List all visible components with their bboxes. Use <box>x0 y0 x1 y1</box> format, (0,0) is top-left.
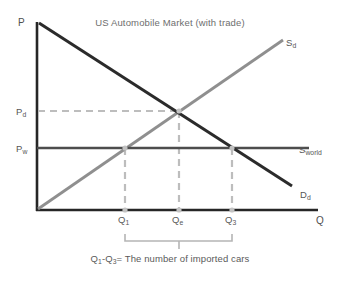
quantity-tick-qe-sub: e <box>180 219 184 226</box>
chart-title: US Automobile Market (with trade) <box>0 17 340 28</box>
quantity-tick-qe: Qe <box>172 215 183 225</box>
q3-axis-point <box>229 145 234 150</box>
curve-label-world-supply: Sworld <box>299 145 322 155</box>
q1-base-point <box>122 207 127 212</box>
q1-axis-point <box>122 145 127 150</box>
quantity-tick-q1: Q1 <box>118 215 129 225</box>
quantity-tick-q1-sub: 1 <box>126 219 130 226</box>
import-range-caption: Q1-Q3= The number of imported cars <box>0 253 340 264</box>
quantity-tick-q3-letter: Q <box>225 214 233 225</box>
economics-diagram: US Automobile Market (with trade) P Q Pd… <box>0 0 340 282</box>
y-axis-label: P <box>18 18 25 28</box>
caption-q-a-sub: 1 <box>98 258 102 265</box>
curve-label-domestic-demand: Dd <box>300 190 311 200</box>
curve-label-domestic-supply-sub: d <box>292 42 296 49</box>
curve-label-domestic-demand-sub: d <box>307 194 311 201</box>
price-tick-world: Pw <box>16 144 27 154</box>
curve-label-domestic-supply: Sd <box>286 38 296 48</box>
curve-label-domestic-demand-letter: D <box>300 189 307 200</box>
price-tick-domestic-sub: d <box>22 111 26 118</box>
qe-base-point <box>176 207 181 212</box>
x-axis-label: Q <box>316 216 324 226</box>
caption-q-b-sub: 3 <box>113 258 117 265</box>
quantity-tick-q3: Q3 <box>225 215 236 225</box>
caption-q-b: Q <box>105 253 113 264</box>
caption-rest: = The number of imported cars <box>117 253 250 264</box>
price-tick-world-sub: w <box>22 148 27 155</box>
quantity-tick-q3-sub: 3 <box>233 219 237 226</box>
curve-label-world-supply-sub: world <box>305 149 321 156</box>
caption-q-a: Q <box>91 253 99 264</box>
domestic-demand-curve <box>39 23 292 186</box>
import-bracket <box>125 234 232 241</box>
price-tick-domestic: Pd <box>16 107 26 117</box>
quantity-tick-q1-letter: Q <box>118 214 126 225</box>
q3-base-point <box>229 207 234 212</box>
autarky-equilibrium-point <box>176 108 181 113</box>
quantity-tick-qe-letter: Q <box>172 214 180 225</box>
domestic-supply-curve <box>38 40 283 209</box>
